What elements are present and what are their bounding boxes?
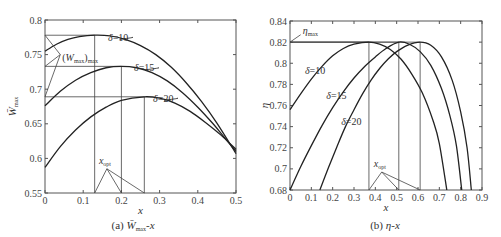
- series-label: δ=20: [153, 93, 173, 104]
- figure-caption: (a) W̄max-x: [111, 219, 154, 232]
- y-tick-label: 0.78: [270, 79, 288, 90]
- x-tick-label: 0.4: [369, 192, 382, 203]
- series-label: δ=10: [108, 32, 128, 43]
- x-axis-label: x: [137, 204, 143, 216]
- annotation-pointer: [107, 169, 144, 193]
- series-label: δ=15: [134, 62, 154, 73]
- x-axis-label: x: [383, 201, 389, 213]
- annotation-pointer: [382, 172, 420, 190]
- y-tick-label: 0.65: [25, 118, 43, 129]
- x-tick-label: 0.6: [412, 192, 425, 203]
- annotation-pointer: [107, 169, 122, 193]
- x-tick-label: 0.3: [153, 195, 166, 206]
- max-annotation: ηmax: [303, 25, 318, 37]
- series-label: δ=10: [305, 65, 325, 76]
- x-tick-label: 0.7: [433, 192, 446, 203]
- annotation-pointer: [45, 35, 60, 54]
- y-tick-label: 0.7: [30, 84, 43, 95]
- y-tick-label: 0.75: [25, 49, 43, 60]
- x-tick-label: 0.5: [230, 195, 243, 206]
- x-tick-label: 0: [43, 195, 48, 206]
- figure-caption: (b) η-x: [370, 219, 400, 232]
- x-tick-label: 0.2: [326, 192, 339, 203]
- y-tick-label: 0.7: [275, 163, 288, 174]
- y-tick-label: 0.68: [270, 185, 288, 196]
- chart-panel-b: 00.10.20.30.40.50.60.70.80.90.680.70.720…: [258, 16, 488, 233]
- x-tick-label: 0: [288, 192, 293, 203]
- x-tick-label: 0.9: [476, 192, 489, 203]
- x-opt-annotation: xopt: [373, 158, 386, 170]
- annotation-pointer: [95, 169, 107, 193]
- x-tick-label: 0.1: [77, 195, 90, 206]
- y-axis-label: W̄max: [6, 97, 19, 117]
- x-tick-label: 0.2: [115, 195, 128, 206]
- x-tick-label: 0.3: [348, 192, 361, 203]
- y-tick-label: 0.72: [270, 142, 288, 153]
- series-label: δ=20: [341, 116, 361, 127]
- figure: 00.10.20.30.40.50.550.60.650.70.750.8δ=1…: [0, 0, 501, 237]
- x-tick-label: 0.1: [305, 192, 318, 203]
- y-tick-label: 0.8: [30, 15, 43, 26]
- series-label: δ=15: [326, 90, 346, 101]
- y-tick-label: 0.8: [275, 58, 288, 69]
- y-axis-label: η: [258, 103, 270, 108]
- y-tick-label: 0.6: [30, 153, 43, 164]
- annotation-pointer: [382, 172, 399, 190]
- x-opt-annotation: xopt: [98, 155, 111, 167]
- x-tick-label: 0.5: [390, 192, 403, 203]
- annotation-pointer: [290, 35, 301, 42]
- chart-panel-a: 00.10.20.30.40.50.550.60.650.70.750.8δ=1…: [6, 15, 242, 233]
- x-tick-label: 0.8: [454, 192, 467, 203]
- series-curve: [45, 97, 236, 168]
- y-tick-label: 0.76: [270, 100, 288, 111]
- max-annotation: (Wmax)max: [62, 52, 98, 64]
- y-tick-label: 0.84: [270, 16, 288, 27]
- y-tick-label: 0.55: [25, 188, 43, 199]
- y-tick-label: 0.74: [270, 121, 288, 132]
- y-tick-label: 0.82: [270, 37, 288, 48]
- x-tick-label: 0.4: [192, 195, 205, 206]
